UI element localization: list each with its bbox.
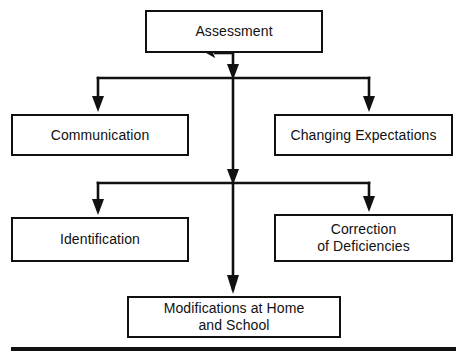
- node-correction-of-deficiencies[interactable]: Correction of Deficiencies: [274, 214, 453, 262]
- node-changing-expectations[interactable]: Changing Expectations: [274, 114, 453, 156]
- node-communication-label: Communication: [47, 127, 154, 144]
- node-assessment-label: Assessment: [191, 23, 276, 40]
- node-modifications-label: Modifications at Home and School: [160, 300, 309, 333]
- arrowhead-into-communication: [92, 96, 104, 112]
- flowchart-diagram: Assessment Communication Changing Expect…: [0, 0, 467, 359]
- arrowhead-into-expectations: [363, 96, 375, 112]
- footer-rule: [11, 347, 456, 351]
- arrowhead-into-correction: [363, 196, 375, 212]
- node-identification[interactable]: Identification: [11, 217, 189, 262]
- node-identification-label: Identification: [56, 231, 144, 248]
- node-changing-expectations-label: Changing Expectations: [286, 127, 440, 144]
- node-modifications-at-home-and-school[interactable]: Modifications at Home and School: [127, 296, 341, 338]
- arrowhead-into-modifications: [227, 275, 239, 294]
- node-communication[interactable]: Communication: [11, 114, 189, 156]
- node-assessment[interactable]: Assessment: [145, 10, 323, 53]
- node-correction-of-deficiencies-label: Correction of Deficiencies: [313, 221, 414, 254]
- arrowhead-into-identification: [92, 199, 104, 215]
